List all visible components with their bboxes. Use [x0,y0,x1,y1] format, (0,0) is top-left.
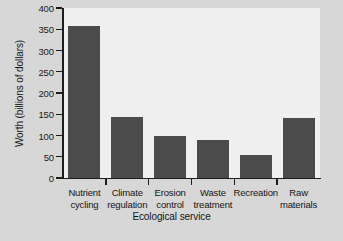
y-axis-tick [56,114,62,115]
category-label-line: Raw [271,187,326,199]
category-label-line: treatment [186,199,241,211]
x-axis-tick [191,179,192,185]
bar [197,140,229,178]
y-axis-tick-label: 300 [38,45,54,56]
y-axis-tick-label: 250 [38,66,54,77]
y-axis-tick-label: 0 [49,173,54,184]
bar [154,136,186,179]
bar-chart-figure: 050100150200250300350400 Nutrientcycling… [0,0,343,241]
x-axis-title: Ecological service [0,211,343,222]
plot-area [63,8,320,178]
y-axis-tick [56,135,62,136]
y-axis-tick [56,29,62,30]
y-axis-tick [56,156,62,157]
y-axis-tick-label: 400 [38,3,54,14]
x-axis-category-label: Rawmaterials [271,187,326,210]
x-axis-tick [148,179,149,185]
bar [283,118,315,178]
category-label-line: materials [271,199,326,211]
y-axis-line [62,8,64,179]
y-axis-title: Worth (billions of dollars) [14,14,25,174]
y-axis-tick-label: 150 [38,109,54,120]
x-axis-tick [234,179,235,185]
x-axis-tick [105,179,106,185]
y-axis-tick-label: 200 [38,88,54,99]
x-axis-tick [276,179,277,185]
bar [240,155,272,178]
y-axis-tick-label: 350 [38,24,54,35]
y-axis-tick-label: 50 [44,151,54,162]
y-axis-tick [56,71,62,72]
y-axis-tick-label: 100 [38,130,54,141]
plot-panel [63,8,320,178]
bar [68,26,100,178]
y-axis-tick [56,7,62,8]
bar [111,117,143,178]
y-axis-tick [56,92,62,93]
y-axis-tick [56,50,62,51]
y-axis-tick [56,177,62,178]
